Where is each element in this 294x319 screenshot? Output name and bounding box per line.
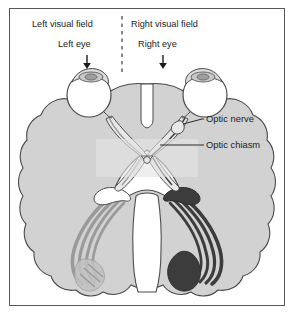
interhemispheric-fissure bbox=[141, 84, 153, 128]
left-eye bbox=[67, 69, 112, 118]
arrow-down-icon-left bbox=[83, 55, 91, 69]
label-right-visual-field: Right visual field bbox=[131, 20, 198, 29]
visual-pathway-figure: Left visual field Right visual field Lef… bbox=[0, 0, 294, 319]
brainstem bbox=[133, 193, 162, 292]
label-optic-nerve: Optic nerve bbox=[206, 114, 254, 123]
right-eye bbox=[182, 69, 227, 118]
label-left-eye: Left eye bbox=[58, 40, 91, 49]
label-left-visual-field: Left visual field bbox=[32, 20, 93, 29]
arrow-down-icon-right bbox=[159, 55, 167, 69]
label-optic-chiasm: Optic chiasm bbox=[206, 140, 260, 149]
label-right-eye: Right eye bbox=[138, 40, 177, 49]
